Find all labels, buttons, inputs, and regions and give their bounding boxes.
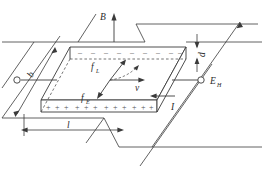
left-terminal-node[interactable] [14,77,20,83]
width-dimension-arrow-top [51,47,57,53]
positive-charge: + [104,103,109,112]
length-dimension [24,114,121,136]
positive-charge: + [122,103,127,112]
positive-charge: + [75,103,80,112]
positive-charge: + [64,103,69,112]
frame-diagonal-bottom-mid [86,118,104,143]
positive-charge: + [141,103,146,112]
thickness-label: d [197,52,207,57]
positive-charge: + [55,103,60,112]
thickness-arrow-down [195,42,200,49]
b-vector-arrowhead [111,13,116,21]
thickness-arrow-up [195,58,200,65]
right-terminal-node[interactable] [198,77,204,83]
hall-field-subscript: H [216,82,222,88]
length-label: l [67,120,70,130]
positive-charge: + [149,103,154,112]
positive-charge: + [113,103,118,112]
length-arrow-right [117,128,124,133]
magnetic-field-label: B [100,12,106,22]
frame-bottom-slant [104,118,119,147]
positive-charge: + [93,103,98,112]
width-dimension-arrow-bottom [13,111,19,117]
hall-effect-diagram: B – – – – – – – – – [0,0,264,172]
hall-field-label: E [209,76,216,86]
positive-charge: + [46,103,51,112]
current-label: I [170,102,175,112]
width-label: b [25,70,36,79]
lorentz-force-subscript: L [95,68,100,74]
frame-diagonal-top-mid [78,14,96,42]
positive-charge: + [132,103,137,112]
hall-effect-figure: B – – – – – – – – – [0,0,264,172]
electric-force-subscript: E [85,99,90,105]
frame-top-slant [136,24,145,42]
